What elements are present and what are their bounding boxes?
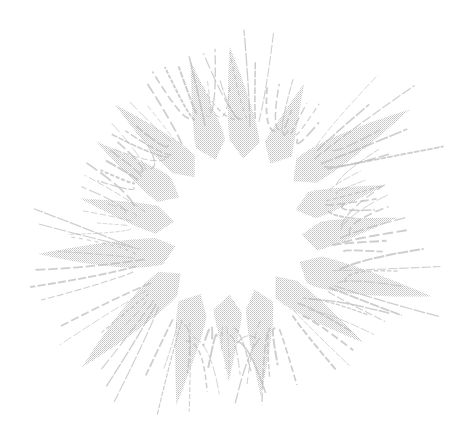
sun-ray <box>246 289 273 397</box>
ray-streak <box>273 328 278 365</box>
sun-ray <box>265 83 304 164</box>
sun-ray <box>175 294 206 405</box>
ray-streak <box>41 272 133 300</box>
ray-streak <box>208 334 217 367</box>
ray-streak <box>297 122 319 143</box>
ray-streak <box>152 71 189 118</box>
sun-ray <box>300 257 432 297</box>
sun-ray <box>80 199 174 234</box>
ray-streak <box>344 250 383 251</box>
sun-ray <box>38 238 176 268</box>
ray-streak <box>279 329 297 385</box>
ray-streak <box>165 67 195 120</box>
ray-streak <box>95 223 127 226</box>
sunburst-svg <box>0 0 472 442</box>
sun-ray <box>82 272 181 367</box>
sun-rays <box>30 30 443 415</box>
ray-streak <box>203 327 212 347</box>
ray-streak <box>266 87 274 131</box>
